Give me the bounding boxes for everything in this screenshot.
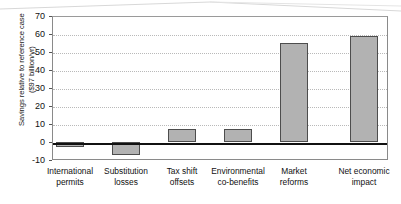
- y-axis-tick-label: -10: [0, 155, 45, 165]
- y-axis-tick-mark: [49, 106, 52, 107]
- y-axis-tick-label: 50: [0, 47, 45, 57]
- y-axis-tick-label: 30: [0, 83, 45, 93]
- bar: [280, 43, 308, 142]
- bar: [168, 129, 196, 142]
- x-axis-tick-label-line: Market: [263, 166, 325, 177]
- gridline: [53, 53, 387, 54]
- y-axis-tick-mark: [49, 34, 52, 35]
- y-axis-tick-mark: [49, 124, 52, 125]
- x-axis-tick-label-line: Environmental: [207, 166, 269, 177]
- y-axis-tick-mark: [49, 16, 52, 17]
- y-axis-tick-mark: [49, 70, 52, 71]
- y-axis-tick-label: 60: [0, 29, 45, 39]
- x-axis-tick-label: Internationalpermits: [39, 166, 101, 187]
- x-axis-tick-label-line: Tax shift: [151, 166, 213, 177]
- y-axis-tick-label: 0: [0, 137, 45, 147]
- y-axis-tick-mark: [49, 88, 52, 89]
- y-axis-tick-label: 70: [0, 11, 45, 21]
- gridline: [53, 35, 387, 36]
- gridline: [53, 71, 387, 72]
- x-axis-tick-label-line: International: [39, 166, 101, 177]
- x-axis-tick-label-line: offsets: [151, 177, 213, 188]
- x-axis-tick-label: Environmentalco-benefits: [207, 166, 269, 187]
- x-axis-tick-label-line: Substitution: [95, 166, 157, 177]
- x-axis-tick-label-line: impact: [333, 177, 395, 188]
- gridline: [53, 125, 387, 126]
- gridline: [53, 107, 387, 108]
- x-axis-tick-label-line: Net economic: [333, 166, 395, 177]
- x-axis-tick-label-line: permits: [39, 177, 101, 188]
- y-axis-tick-mark: [49, 142, 52, 143]
- gridline: [53, 89, 387, 90]
- y-axis-tick-label: 40: [0, 65, 45, 75]
- zero-baseline: [53, 143, 387, 145]
- bar: [350, 36, 378, 142]
- x-axis-tick-label-line: losses: [95, 177, 157, 188]
- bar: [224, 129, 252, 143]
- x-axis-tick-label: Substitutionlosses: [95, 166, 157, 187]
- y-axis-tick-label: 20: [0, 101, 45, 111]
- bar-chart-figure: Savings relative to reference case ($97 …: [0, 0, 401, 204]
- y-axis-tick-mark: [49, 52, 52, 53]
- y-axis-tick-label: 10: [0, 119, 45, 129]
- x-axis-tick-label-line: co-benefits: [207, 177, 269, 188]
- x-axis-tick-label: Net economicimpact: [333, 166, 395, 187]
- x-axis-tick-label: Tax shiftoffsets: [151, 166, 213, 187]
- plot-area: [52, 16, 388, 160]
- x-axis-tick-label-line: reforms: [263, 177, 325, 188]
- y-axis-tick-mark: [49, 160, 52, 161]
- x-axis-tick-label: Marketreforms: [263, 166, 325, 187]
